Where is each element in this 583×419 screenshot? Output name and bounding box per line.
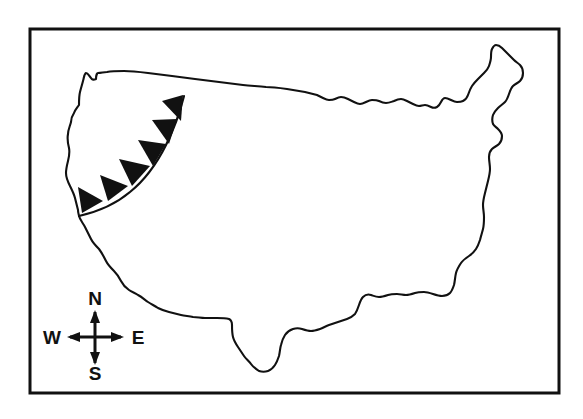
compass-label-north: N bbox=[88, 288, 102, 309]
compass-label-south: S bbox=[89, 363, 102, 384]
compass-label-east: E bbox=[132, 327, 145, 348]
figure-root: N S W E bbox=[0, 0, 583, 419]
compass-label-west: W bbox=[43, 327, 61, 348]
us-map-figure: N S W E bbox=[0, 0, 583, 419]
